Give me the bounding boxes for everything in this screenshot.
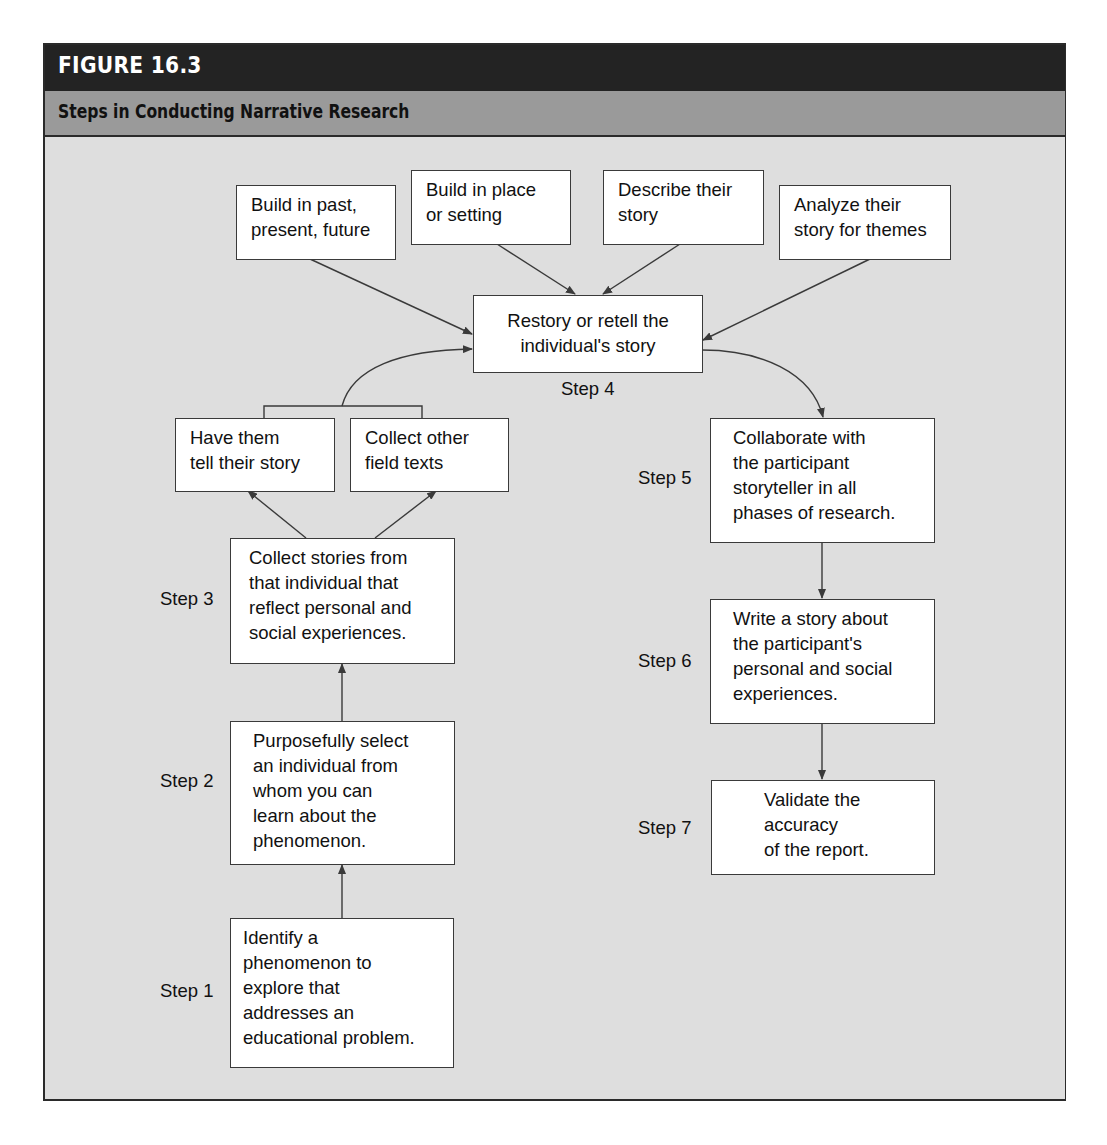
figure-header: FIGURE 16.3 bbox=[45, 45, 1065, 91]
figure-number: FIGURE 16.3 bbox=[58, 52, 202, 78]
figure-title: Steps in Conducting Narrative Research bbox=[58, 100, 409, 122]
figure-frame: FIGURE 16.3 Steps in Conducting Narrativ… bbox=[43, 43, 1066, 1101]
figure-subtitle-bar: Steps in Conducting Narrative Research bbox=[45, 91, 1065, 137]
